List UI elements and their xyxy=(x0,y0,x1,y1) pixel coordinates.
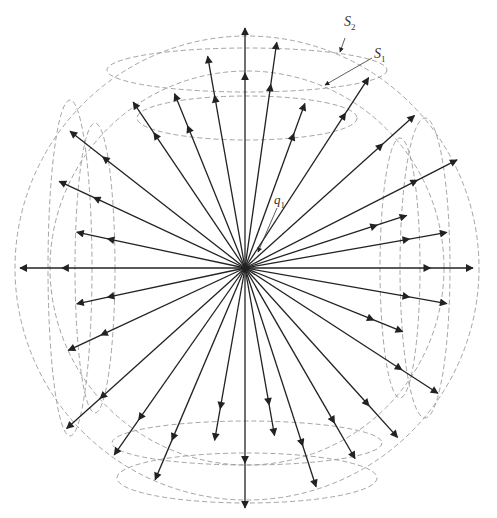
field-line-arrow-tip xyxy=(270,42,276,87)
field-line-arrow xyxy=(221,268,245,406)
field-line-arrow-tip xyxy=(374,215,406,226)
field-line-arrow xyxy=(189,129,245,268)
field-line-arrow xyxy=(245,136,293,268)
field-line-arrow-tip xyxy=(77,297,111,304)
field-line-arrow xyxy=(105,159,245,268)
field-line-arrow-tip xyxy=(415,160,457,182)
field-line-arrow xyxy=(245,268,371,319)
field-line-arrow-tip xyxy=(68,334,103,350)
field-line-arrow-tip xyxy=(367,404,398,438)
label-s2: S2 xyxy=(344,14,356,32)
field-line-arrows xyxy=(20,28,473,508)
label-q1: q1 xyxy=(274,192,285,210)
charge-field-diagram: S2 S1 q1 xyxy=(0,0,497,518)
field-line-arrow xyxy=(245,268,302,443)
field-line-arrow xyxy=(96,199,245,268)
label-pointers xyxy=(258,38,372,252)
field-line-arrow xyxy=(110,268,245,297)
field-line-arrow-tip xyxy=(399,368,438,393)
field-lines-figure xyxy=(0,0,497,518)
field-line-arrow-tip xyxy=(333,420,355,458)
field-line-arrow-tip xyxy=(70,131,105,158)
field-line-arrow xyxy=(140,268,245,417)
field-line-arrow xyxy=(104,268,245,334)
field-line-arrow-tip xyxy=(371,319,403,332)
field-line-arrow-tip xyxy=(175,94,189,129)
field-line-arrow xyxy=(102,268,245,396)
field-line-arrow-tip xyxy=(407,232,447,239)
field-line-arrow-tip xyxy=(293,104,305,137)
label-s1: S1 xyxy=(374,46,386,64)
field-line-arrow xyxy=(173,268,245,437)
field-line-arrow-tip xyxy=(269,402,275,435)
field-line-arrow-tip xyxy=(208,56,215,98)
field-line-arrow xyxy=(110,239,245,268)
field-line-arrow-tip xyxy=(77,232,111,239)
field-line-arrow xyxy=(245,182,415,268)
field-line-arrow xyxy=(245,240,407,268)
field-line-arrow xyxy=(245,268,407,296)
field-line-arrow xyxy=(215,99,245,268)
field-line-arrow-tip xyxy=(215,406,221,440)
field-line-arrow xyxy=(245,87,270,268)
field-line-arrow xyxy=(156,135,245,268)
field-line-arrow xyxy=(245,226,374,268)
field-line-arrow-tip xyxy=(302,443,316,487)
field-line-arrow-tip xyxy=(407,296,447,303)
